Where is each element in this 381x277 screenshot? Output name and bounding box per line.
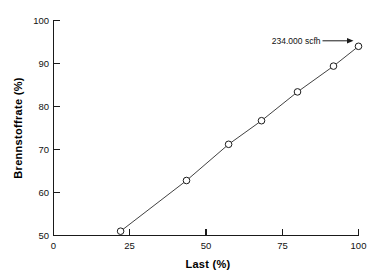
annotation-label: 234.000 scfh bbox=[272, 36, 321, 46]
y-tick-label-100: 100 bbox=[33, 15, 49, 26]
data-point bbox=[294, 89, 301, 96]
y-tick-label-50: 50 bbox=[38, 230, 49, 241]
data-point bbox=[330, 63, 337, 70]
x-tick-label-25: 25 bbox=[124, 240, 135, 251]
y-tick-label-60: 60 bbox=[38, 187, 49, 198]
axes-group bbox=[54, 20, 360, 236]
data-point bbox=[183, 177, 190, 184]
x-axis-title: Last (%) bbox=[185, 258, 230, 270]
y-axis-tick-labels: 100 90 80 70 60 50 bbox=[33, 15, 49, 241]
data-point bbox=[225, 141, 232, 148]
x-tick-label-75: 75 bbox=[277, 240, 288, 251]
y-axis-ticks bbox=[54, 21, 61, 236]
x-tick-label-50: 50 bbox=[201, 240, 212, 251]
annotation-arrow-head bbox=[347, 38, 354, 44]
y-tick-label-80: 80 bbox=[38, 101, 49, 112]
chart-container: 100 90 80 70 60 50 0 25 50 75 100 Last (… bbox=[0, 0, 381, 277]
data-point bbox=[258, 117, 265, 124]
data-point bbox=[117, 228, 124, 235]
annotation-group: 234.000 scfh bbox=[272, 36, 354, 46]
x-axis-ticks bbox=[54, 229, 359, 236]
x-tick-label-0: 0 bbox=[51, 240, 56, 251]
line-chart: 100 90 80 70 60 50 0 25 50 75 100 Last (… bbox=[0, 0, 381, 277]
y-axis-title: Brennstoffrate (%) bbox=[12, 77, 24, 178]
y-tick-label-70: 70 bbox=[38, 144, 49, 155]
x-tick-label-100: 100 bbox=[351, 240, 367, 251]
data-series-line bbox=[121, 46, 359, 231]
x-axis-tick-labels: 0 25 50 75 100 bbox=[51, 240, 367, 251]
y-tick-label-90: 90 bbox=[38, 58, 49, 69]
data-point bbox=[355, 43, 362, 50]
